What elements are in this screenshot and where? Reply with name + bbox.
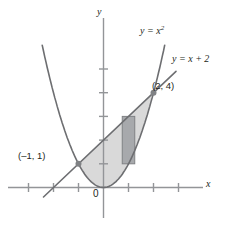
origin-label: 0 (93, 188, 99, 199)
intersection-point-a-dot (76, 161, 82, 167)
point-label-b: (2, 4) (152, 80, 174, 91)
x-axis-label: x (206, 178, 210, 189)
y-axis-label: y (97, 6, 101, 17)
point-label-a: (–1, 1) (18, 150, 45, 161)
figure-canvas: y = x2 y = x + 2 x y 0 (–1, 1) (2, 4) (0, 0, 228, 226)
curve-label-parabola: y = x2 (140, 24, 164, 36)
graph-svg (0, 0, 228, 226)
shaded-region-precise (79, 93, 154, 188)
curve-label-line: y = x + 2 (172, 53, 209, 64)
